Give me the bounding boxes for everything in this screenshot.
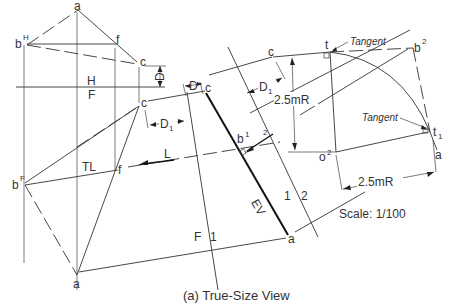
auxiliary-view-2: 2.5mR 2.5mR c t b 2 t 1 o 2 a Tangent Ta…	[268, 36, 443, 190]
figure-caption: (a) True-Size View	[183, 288, 290, 303]
label-a-view1: a	[288, 232, 295, 246]
dim-radius-horizontal: 2.5mR	[358, 175, 394, 189]
label-b2: b	[414, 41, 421, 55]
label-a-view2: a	[435, 148, 442, 162]
label-c-view2: c	[268, 45, 274, 59]
label-c-top: c	[140, 55, 146, 69]
fold-label-F1-right: 1	[210, 230, 217, 244]
label-o2-sup: 2	[327, 148, 332, 157]
dim-D-top: D	[153, 72, 167, 81]
label-c-view1: c	[205, 81, 211, 95]
label-c-front: c	[141, 96, 147, 110]
label-bF: b	[12, 178, 19, 192]
edge-a-c-top	[78, 10, 137, 62]
edge-bF-a	[25, 185, 77, 275]
scale-label: Scale: 1/100	[339, 207, 406, 221]
fold-label-12-right: 2	[301, 189, 308, 203]
label-t1-sub: 1	[438, 132, 443, 141]
label-EV: EV	[248, 197, 268, 218]
edge-t-b2	[330, 48, 413, 52]
edge-b2-t1	[413, 48, 430, 132]
label-TL: TL	[82, 160, 96, 174]
label-a-top: a	[74, 0, 81, 13]
label-t: t	[325, 38, 329, 52]
fold-line-f1	[187, 92, 218, 290]
label-L: L	[164, 147, 171, 161]
label-f-top: f	[116, 33, 120, 47]
true-size-view-drawing: D a b H f c H F TL f b F a c L F 1 D 1	[0, 0, 454, 305]
radius-line-o2-t1	[336, 132, 428, 152]
fold-label-F1-left: F	[194, 230, 201, 244]
fold-label-12-left: 1	[284, 189, 291, 203]
edge-bF-f-TL	[25, 170, 118, 185]
label-b1-sup: 1	[245, 130, 250, 139]
dim-D1-left: D	[160, 117, 169, 131]
label-bH-sup: H	[23, 33, 29, 42]
edge-c-t	[273, 52, 330, 57]
label-b1: b	[237, 132, 244, 146]
label-bH: b	[15, 37, 22, 51]
dim-D1-right: D	[259, 80, 268, 94]
projector-a-front-to-view1	[79, 238, 286, 272]
label-t1: t	[433, 125, 437, 139]
label-a-front: a	[73, 277, 80, 291]
label-f-front: f	[118, 163, 122, 177]
edge-view-plane	[206, 93, 288, 235]
radius-line-t-o2	[330, 52, 336, 152]
fold-label-F: F	[88, 88, 95, 102]
label-bF-sup: F	[20, 174, 25, 183]
dim-D1-left-sub: 1	[169, 124, 174, 133]
fold-label-H: H	[87, 74, 96, 88]
top-view: D a b H f c H F	[15, 0, 167, 290]
front-view: TL f b F a c	[12, 96, 286, 291]
label-o2: o	[319, 150, 326, 164]
edge-bH-a	[27, 10, 78, 45]
label-tangent-top: Tangent	[350, 36, 387, 47]
label-b2-sup: 2	[422, 37, 427, 46]
dim-radius-vertical: 2.5mR	[274, 93, 310, 107]
projector-c-view1-to-view2	[209, 57, 272, 75]
dim-D-view1: D	[189, 79, 198, 93]
edge-c-a-front	[77, 106, 139, 275]
dim-D1-right-sub: 1	[268, 87, 273, 96]
label-tangent-right: Tangent	[362, 112, 399, 123]
